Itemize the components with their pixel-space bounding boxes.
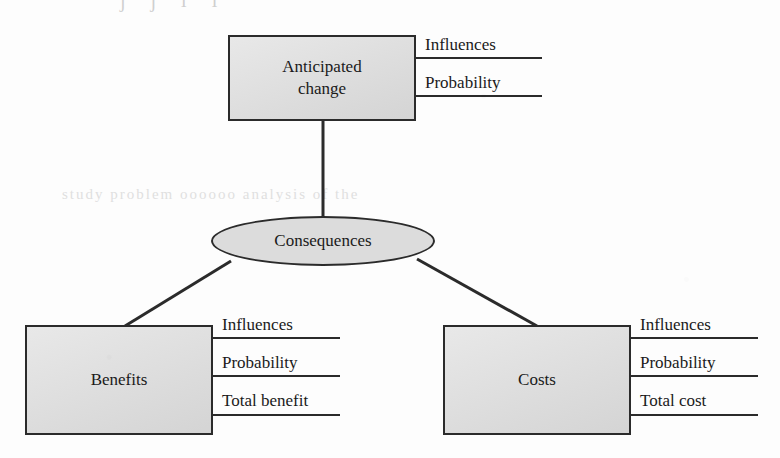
attr-line-anticipated-probability [415, 95, 542, 97]
node-costs-label: Costs [518, 369, 556, 391]
node-consequences[interactable]: Consequences [211, 216, 435, 266]
attr-label-anticipated-probability: Probability [425, 74, 501, 91]
attr-line-costs-probability [630, 375, 758, 377]
attr-line-benefits-total [212, 414, 340, 416]
node-consequences-label: Consequences [274, 231, 371, 251]
attr-line-benefits-influences [212, 337, 340, 339]
attr-label-costs-total-cost: Total cost [640, 392, 706, 409]
diagram-canvas: j j i i study problem oooooo analysis of… [0, 0, 780, 458]
attr-line-anticipated-influences [415, 57, 542, 59]
attr-label-costs-probability: Probability [640, 354, 716, 371]
attr-label-costs-influences: Influences [640, 316, 711, 333]
node-benefits[interactable]: Benefits [25, 325, 213, 435]
node-anticipated-change[interactable]: Anticipated change [228, 35, 416, 121]
node-benefits-label: Benefits [91, 369, 148, 391]
attr-label-anticipated-influences: Influences [425, 36, 496, 53]
node-anticipated-change-label: Anticipated change [282, 56, 361, 100]
node-costs[interactable]: Costs [443, 325, 631, 435]
edge-consequences-to-costs [417, 259, 537, 326]
attr-line-costs-total [630, 414, 758, 416]
edge-consequences-to-benefits [125, 261, 231, 326]
attr-line-benefits-probability [212, 375, 340, 377]
attr-label-benefits-probability: Probability [222, 354, 298, 371]
attr-line-costs-influences [630, 337, 758, 339]
attr-label-benefits-total-benefit: Total benefit [222, 392, 308, 409]
attr-label-benefits-influences: Influences [222, 316, 293, 333]
